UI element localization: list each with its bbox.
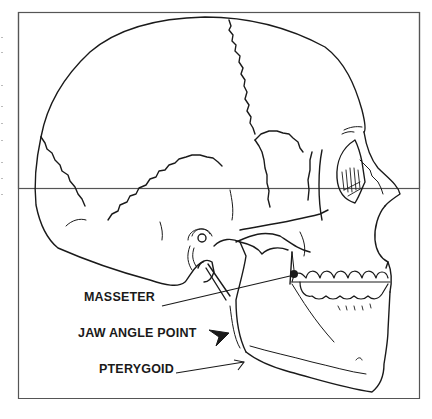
sphenoid-suture xyxy=(255,131,303,152)
label-masseter: MASSETER xyxy=(84,290,155,304)
coronal-suture xyxy=(229,20,255,134)
lambdoid-suture xyxy=(41,137,85,206)
edge-tick xyxy=(1,37,3,38)
frontal-orbit-line xyxy=(308,152,312,200)
skull-diagram xyxy=(0,0,432,419)
mandible-oblique-line xyxy=(292,284,334,342)
pterygoid-leader-line xyxy=(176,362,244,373)
lower-gum-ticks xyxy=(338,304,371,310)
label-jaw-angle-point: JAW ANGLE POINT xyxy=(78,326,197,340)
edge-tick xyxy=(1,123,3,124)
ramus-front-edge xyxy=(290,252,292,284)
edge-tick xyxy=(1,162,3,163)
brow-ridge xyxy=(342,127,362,134)
pterygoid-arrowhead xyxy=(234,360,244,370)
maxilla-line xyxy=(292,232,305,270)
edge-tick xyxy=(1,85,3,86)
masseter-leader-line xyxy=(162,276,290,306)
edge-tick xyxy=(1,106,3,107)
edge-tick xyxy=(1,52,3,53)
lower-teeth xyxy=(300,282,388,299)
edge-tick xyxy=(1,194,3,195)
maxilla-front xyxy=(388,262,391,292)
sphenoid-lower xyxy=(255,140,270,207)
jaw-angle-arrow-icon xyxy=(209,330,229,346)
orbit-hatching xyxy=(342,168,362,196)
mandible-inner-line xyxy=(250,346,366,374)
mastoid-process xyxy=(198,260,214,282)
orbit-outline xyxy=(337,140,365,203)
temporal-lines xyxy=(66,190,233,240)
coronoid-notch xyxy=(240,242,288,254)
ear-canal xyxy=(198,234,206,242)
mental-foramen xyxy=(356,358,362,360)
squamosal-suture xyxy=(108,155,222,220)
zygomatic-front xyxy=(319,150,322,220)
nasal-aperture xyxy=(375,206,388,268)
mandible-body xyxy=(246,292,390,392)
edge-tick xyxy=(1,178,3,179)
zygomatic-arch-lower xyxy=(236,234,310,252)
edge-tick xyxy=(1,140,3,141)
masseter-point-dot xyxy=(290,270,298,278)
upper-teeth xyxy=(292,271,388,282)
cranium-outline xyxy=(41,17,365,137)
label-pterygoid: PTERYGOID xyxy=(99,362,174,376)
zygomatic-arch xyxy=(240,210,328,230)
